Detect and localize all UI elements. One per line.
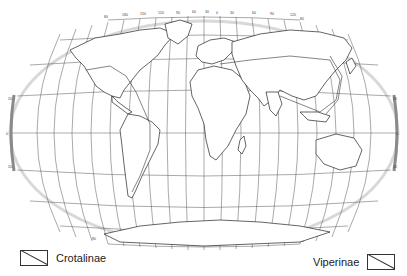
svg-text:20: 20 <box>8 97 12 101</box>
svg-text:0: 0 <box>396 132 398 136</box>
legend-crotalinae-label: Crotalinae <box>56 252 106 264</box>
svg-text:80: 80 <box>104 15 108 19</box>
viperinae-swatch-icon <box>367 254 395 270</box>
svg-text:30: 30 <box>205 10 209 14</box>
svg-text:120: 120 <box>158 11 164 15</box>
svg-text:90: 90 <box>270 12 274 16</box>
madagascar <box>238 136 246 154</box>
india <box>266 92 282 116</box>
svg-text:20: 20 <box>393 97 397 101</box>
svg-text:80: 80 <box>92 237 96 241</box>
australia <box>316 134 362 170</box>
indonesia <box>300 112 330 122</box>
svg-text:150: 150 <box>140 12 146 16</box>
svg-text:90: 90 <box>176 11 180 15</box>
svg-text:80: 80 <box>300 17 304 21</box>
svg-text:0: 0 <box>6 132 8 136</box>
svg-text:20: 20 <box>393 165 397 169</box>
svg-text:60: 60 <box>192 10 196 14</box>
central-america <box>112 96 132 114</box>
south-america <box>120 114 160 198</box>
europe <box>196 38 236 64</box>
svg-text:60: 60 <box>252 11 256 15</box>
legend-viperinae: Viperinae <box>313 254 395 270</box>
svg-text:20: 20 <box>8 165 12 169</box>
antarctica <box>104 220 330 246</box>
svg-text:180: 180 <box>122 13 128 17</box>
crotalinae-swatch-icon <box>20 250 48 266</box>
svg-text:0: 0 <box>216 11 218 15</box>
world-map: 80 180 150 120 90 60 30 0 30 60 90 120 8… <box>0 0 407 276</box>
svg-text:30: 30 <box>230 11 234 15</box>
legend-crotalinae: Crotalinae <box>20 250 106 266</box>
svg-text:120: 120 <box>290 13 296 17</box>
legend-viperinae-label: Viperinae <box>313 256 359 268</box>
japan <box>346 58 356 74</box>
